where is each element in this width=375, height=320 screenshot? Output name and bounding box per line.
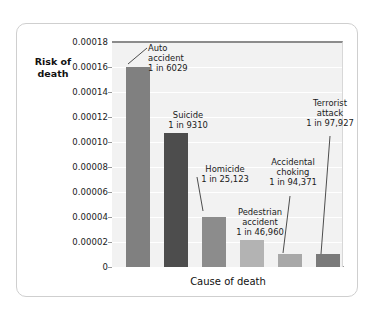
y-tick-mark (108, 242, 112, 243)
y-tick-label-1: 0.00016 (72, 62, 108, 72)
annotation-suicide: Suicide 1 in 9310 (152, 110, 224, 130)
annotation-pedestrian-accident-line1: Pedestrian (222, 207, 298, 217)
annotation-suicide-line1: Suicide (152, 110, 224, 120)
annotation-accidental-choking: Accidental choking 1 in 94,371 (255, 157, 331, 187)
y-tick-mark (108, 192, 112, 193)
annotation-pedestrian-accident-line2: accident (222, 217, 298, 227)
annotation-suicide-line2: 1 in 9310 (152, 120, 224, 130)
annotation-auto-accident-line2: accident (148, 53, 188, 63)
annotation-accidental-choking-line3: 1 in 94,371 (255, 177, 331, 187)
y-tick-label-0: 0.00018 (72, 37, 108, 47)
y-tick-label-6: 0.00006 (72, 187, 108, 197)
y-tick-mark (108, 167, 112, 168)
y-tick-mark (108, 267, 112, 268)
y-tick-label-8: 0.00002 (72, 237, 108, 247)
y-tick-label-3: 0.00012 (72, 112, 108, 122)
annotation-accidental-choking-line1: Accidental (255, 157, 331, 167)
annotation-pedestrian-accident: Pedestrian accident 1 in 46,960 (222, 207, 298, 237)
y-tick-mark (108, 92, 112, 93)
annotation-terrorist-attack-line1: Terrorist (293, 98, 367, 108)
annotation-homicide-line1: Homicide (186, 164, 264, 174)
annotation-pedestrian-accident-line3: 1 in 46,960 (222, 227, 298, 237)
annotation-homicide-line2: 1 in 25,123 (186, 174, 264, 184)
y-tick-label-2: 0.00014 (72, 87, 108, 97)
annotation-terrorist-attack: Terrorist attack 1 in 97,927 (293, 98, 367, 128)
bar-pedestrian-accident[interactable] (240, 240, 264, 267)
y-tick-label-7: 0.00004 (72, 212, 108, 222)
risk-of-death-bar-chart: Risk of death 0.00018 0.00016 0.00014 0.… (0, 0, 375, 320)
y-tick-label-5: 0.00008 (72, 162, 108, 172)
y-tick-mark (108, 117, 112, 118)
y-tick-mark (108, 67, 112, 68)
x-axis-title: Cause of death (112, 276, 344, 287)
y-tick-mark (108, 142, 112, 143)
bar-suicide[interactable] (164, 133, 188, 267)
y-tick-mark (108, 217, 112, 218)
bar-auto-accident[interactable] (126, 67, 150, 267)
annotation-auto-accident-line3: 1 in 6029 (148, 63, 188, 73)
annotation-accidental-choking-line2: choking (255, 167, 331, 177)
y-tick-label-4: 0.00010 (72, 137, 108, 147)
annotation-auto-accident: Auto accident 1 in 6029 (148, 43, 188, 73)
annotation-auto-accident-line1: Auto (148, 43, 188, 53)
annotation-homicide: Homicide 1 in 25,123 (186, 164, 264, 184)
annotation-terrorist-attack-line3: 1 in 97,927 (293, 118, 367, 128)
annotation-terrorist-attack-line2: attack (293, 108, 367, 118)
bar-accidental-choking[interactable] (278, 254, 302, 267)
bar-terrorist-attack[interactable] (316, 254, 340, 267)
